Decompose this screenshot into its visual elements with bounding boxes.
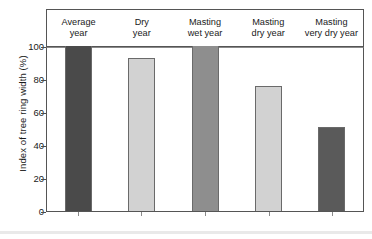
bar[interactable] [192,46,219,211]
y-axis-tick-mark [41,80,46,81]
bar[interactable] [318,127,345,211]
category-header-cell: Mastingdry year [237,10,300,46]
category-header-cell: Dryyear [110,10,173,46]
category-header-cell: Mastingvery dry year [300,10,363,46]
category-header-line: dry year [252,28,285,39]
category-header-line: Masting [252,17,284,28]
category-header-line: year [70,28,88,39]
category-header-line: very dry year [305,28,358,39]
category-header-line: Average [62,17,96,28]
category-header-box: AverageyearDryyearMastingwet yearMasting… [46,9,364,47]
category-header-line: Masting [315,17,347,28]
category-header-cell: Mastingwet year [173,10,236,46]
bar[interactable] [65,46,92,211]
bars-layer [47,48,363,211]
bar-slot [237,48,300,211]
bar-slot [110,48,173,211]
x-axis-tick-mark [78,212,79,216]
y-axis-tick-mark [41,113,46,114]
category-header-cell: Averageyear [47,10,110,46]
x-axis-tick-mark [332,212,333,216]
bar[interactable] [128,58,155,211]
x-axis-tick-mark [269,212,270,216]
category-header-line: Dry [135,17,149,28]
y-axis-tick-mark [41,179,46,180]
y-axis-tick-mark [41,212,46,213]
category-header-line: Masting [189,17,221,28]
y-axis-tick-labels: 020406080100 [22,0,44,239]
y-axis-tick-mark [41,146,46,147]
category-header-line: wet year [188,28,223,39]
y-axis-tick-mark [41,47,46,48]
bar[interactable] [255,86,282,211]
bar-slot [173,48,236,211]
tree-ring-bar-chart: Index of tree ring width (%) 02040608010… [0,0,372,239]
x-axis-tick-mark [141,212,142,216]
bar-slot [47,48,110,211]
x-axis-tick-marks [46,212,364,218]
bar-slot [300,48,363,211]
x-axis-tick-mark [205,212,206,216]
category-header-line: year [133,28,151,39]
plot-area [46,47,364,212]
bottom-rule [0,231,372,234]
